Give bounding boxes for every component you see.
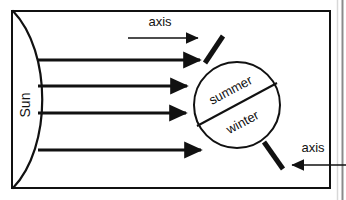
axis-stub-top [205, 36, 223, 63]
sun-label: Sun [17, 93, 33, 118]
axis-label-bottom: axis [301, 140, 325, 155]
sunlight-rays [37, 60, 201, 150]
seasons-diagram: Sun summer winter axis axis [0, 0, 346, 200]
axis-stub-bottom [264, 142, 283, 169]
axis-label-top: axis [148, 14, 172, 29]
diagram-screenshot: Sun summer winter axis axis [0, 0, 346, 200]
